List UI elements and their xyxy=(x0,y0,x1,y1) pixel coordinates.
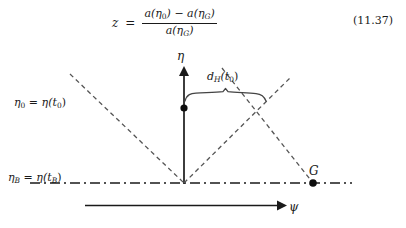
eta0-rhs: η(t xyxy=(42,96,57,109)
eta-axis-arrowhead xyxy=(179,66,189,76)
point-g-label: G xyxy=(309,164,319,178)
eta0-relation: = xyxy=(25,96,41,109)
eta0-close: ) xyxy=(62,96,66,109)
horizon-distance-label: dH(t0) xyxy=(207,70,238,84)
etab-rhs: η(t xyxy=(36,171,51,184)
etab-close: ) xyxy=(57,171,61,184)
etab-definition-label: ηB = η(tB) xyxy=(8,171,61,185)
past-lightcone-left-dashed xyxy=(70,74,184,183)
psi-axis-arrowhead xyxy=(277,201,287,211)
eta0-point-marker xyxy=(180,104,187,111)
eta0-lhs: η xyxy=(14,96,21,109)
horizon-label-arg: (t xyxy=(221,70,230,83)
horizon-label-close: ) xyxy=(234,70,238,83)
etab-relation: = xyxy=(20,171,36,184)
horizon-label-d: d xyxy=(207,70,214,83)
etab-lhs: η xyxy=(8,171,15,184)
figure-page: z = a(η0) − a(ηG) a(ηG) (11.37) η ψ G xyxy=(0,0,406,228)
horizon-distance-brace xyxy=(185,89,266,102)
g-worldline-dashed xyxy=(222,68,313,183)
spacetime-diagram: η ψ G xyxy=(0,0,406,228)
eta0-definition-label: η0 = η(t0) xyxy=(14,96,66,110)
eta-axis-label: η xyxy=(177,49,185,63)
psi-axis-label: ψ xyxy=(289,200,299,214)
point-g-marker xyxy=(309,179,317,187)
